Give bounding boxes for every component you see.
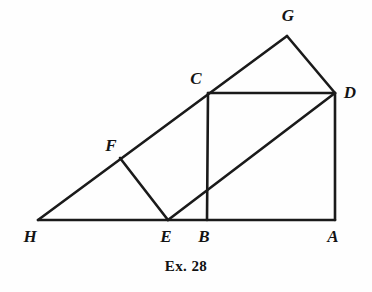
vertex-label-B: B	[198, 228, 209, 245]
segment-FE	[120, 158, 168, 220]
vertex-label-C: C	[190, 70, 201, 87]
segment-HG	[38, 36, 287, 220]
geometry-figure: G C D F H E B A Ex. 28	[0, 0, 372, 292]
figure-caption: Ex. 28	[0, 258, 372, 275]
segment-ED	[168, 93, 335, 220]
segment-GD	[287, 36, 335, 93]
vertex-label-H: H	[23, 228, 36, 245]
segment-group	[38, 36, 335, 220]
geometry-canvas	[0, 0, 372, 292]
vertex-label-A: A	[327, 228, 338, 245]
vertex-label-E: E	[160, 228, 171, 245]
segment-CB	[207, 93, 208, 220]
vertex-label-D: D	[344, 84, 356, 101]
vertex-label-G: G	[282, 7, 294, 24]
vertex-label-F: F	[105, 137, 116, 154]
